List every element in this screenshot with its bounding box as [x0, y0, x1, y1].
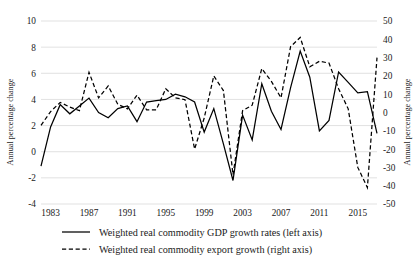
- x-tick-2011: 2011: [310, 208, 329, 218]
- right-tick--10: -10: [383, 126, 396, 136]
- legend-label-1: Weighted real commodity GDP growth rates…: [99, 227, 322, 239]
- right-axis-tick-labels: 50403020100-10-20-30-40-50: [383, 16, 396, 209]
- series-line-gdp-growth: [41, 51, 377, 180]
- right-tick-20: 20: [383, 71, 393, 81]
- x-axis-tick-labels: 198319871991199519992003200720112015: [41, 208, 367, 218]
- left-axis-title: Annual percentage change: [6, 78, 15, 165]
- right-axis-title: Annual percentage change: [403, 78, 412, 165]
- x-tick-2007: 2007: [272, 208, 291, 218]
- left-tick-2: 2: [31, 121, 36, 131]
- legend-label-2: Weighted real commodity export growth (r…: [99, 244, 312, 256]
- chart-container: 1086420-2-4 50403020100-10-20-30-40-50 1…: [0, 0, 419, 267]
- x-tick-2015: 2015: [349, 208, 368, 218]
- left-tick--4: -4: [28, 199, 36, 209]
- right-tick-10: 10: [383, 90, 393, 100]
- left-axis-tick-labels: 1086420-2-4: [27, 16, 37, 209]
- left-tick--2: -2: [28, 173, 36, 183]
- legend: Weighted real commodity GDP growth rates…: [62, 227, 322, 256]
- right-tick-0: 0: [383, 108, 388, 118]
- left-tick-10: 10: [27, 16, 37, 26]
- x-tick-1995: 1995: [157, 208, 176, 218]
- right-tick-30: 30: [383, 53, 393, 63]
- right-tick--20: -20: [383, 145, 396, 155]
- right-tick--40: -40: [383, 181, 396, 191]
- x-tick-1987: 1987: [80, 208, 99, 218]
- x-tick-2003: 2003: [233, 208, 252, 218]
- x-tick-1999: 1999: [195, 208, 214, 218]
- line-chart: 1086420-2-4 50403020100-10-20-30-40-50 1…: [0, 0, 419, 267]
- right-tick--50: -50: [383, 199, 396, 209]
- gridlines-group: [41, 21, 377, 204]
- left-tick-4: 4: [31, 95, 36, 105]
- right-tick-40: 40: [383, 35, 393, 45]
- right-tick--30: -30: [383, 163, 396, 173]
- right-tick-50: 50: [383, 16, 393, 26]
- x-tick-1983: 1983: [41, 208, 60, 218]
- series-line-export-growth: [41, 37, 377, 187]
- x-tick-1991: 1991: [118, 208, 137, 218]
- left-tick-0: 0: [31, 147, 36, 157]
- left-tick-6: 6: [31, 69, 36, 79]
- left-tick-8: 8: [31, 43, 36, 53]
